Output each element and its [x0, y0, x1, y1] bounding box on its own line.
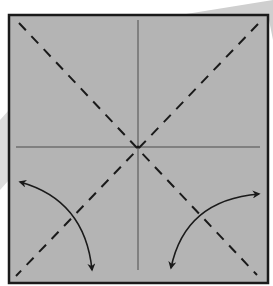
origami-diagram [0, 0, 273, 286]
center-point [137, 146, 140, 149]
